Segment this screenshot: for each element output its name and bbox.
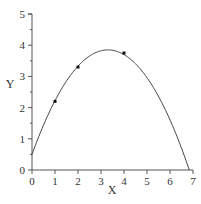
x-tick-label: 1 xyxy=(52,175,58,187)
x-tick-label: 7 xyxy=(190,175,196,187)
y-tick-label: 5 xyxy=(20,8,26,20)
x-tick-label: 3 xyxy=(98,175,104,187)
fitted-curve xyxy=(32,50,189,170)
axes xyxy=(28,14,193,170)
x-axis-label: X xyxy=(108,183,117,197)
data-point xyxy=(54,100,57,103)
y-tick-label: 0 xyxy=(20,164,26,176)
data-point xyxy=(77,66,80,69)
y-tick-label: 4 xyxy=(20,39,26,51)
x-tick-label: 2 xyxy=(75,175,81,187)
x-tick-label: 4 xyxy=(121,175,127,187)
x-tick-label: 6 xyxy=(167,175,173,187)
y-axis-label: Y xyxy=(6,77,15,91)
ticks: 01234567012345 xyxy=(20,8,197,187)
chart: 01234567012345 X Y xyxy=(0,0,201,204)
x-tick-label: 5 xyxy=(144,175,150,187)
data-point xyxy=(123,52,126,55)
x-tick-label: 0 xyxy=(29,175,35,187)
data-points xyxy=(54,52,126,103)
y-tick-label: 2 xyxy=(20,102,26,114)
y-tick-label: 3 xyxy=(20,70,26,82)
y-tick-label: 1 xyxy=(20,133,26,145)
